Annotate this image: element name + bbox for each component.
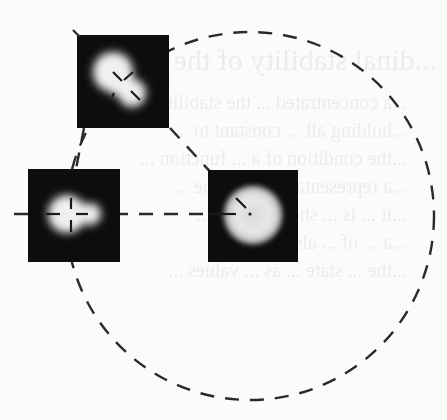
image-panel-top bbox=[73, 30, 169, 128]
image-panel-left bbox=[28, 169, 120, 262]
connector-top-to-left bbox=[76, 128, 84, 169]
image-panel-right bbox=[208, 170, 298, 262]
center-point bbox=[248, 212, 251, 215]
diagram-canvas bbox=[0, 0, 447, 420]
